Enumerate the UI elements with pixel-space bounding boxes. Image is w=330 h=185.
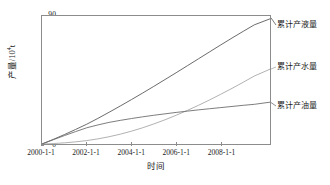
series-line-累计产液量 [42,19,270,144]
x-tick-mark-2006 [176,142,177,146]
series-label-累计产液量: 累计产液量 [277,20,317,29]
plot-area [41,15,271,145]
series-line-累计产水量 [42,69,270,144]
x-axis-title: 时间 [0,161,312,171]
y-axis-title: 产量/104t [7,27,17,97]
x-tick-mark-2008 [221,142,222,146]
series-canvas [42,16,270,144]
y-axis-title-exponent: 4 [6,47,12,50]
x-tick-mark-2002 [86,142,87,146]
production-line-chart: 0102030405060708090 产量/104t 2000-1-12002… [0,0,330,185]
x-tick-mark-2000 [41,142,42,146]
x-tick-mark-2004 [131,142,132,146]
series-label-累计产油量: 累计产油量 [277,101,317,110]
y-axis-title-base: 产量/10 [7,50,17,79]
x-tick-label-2008: 2008-1-1 [191,148,251,157]
series-label-累计产水量: 累计产水量 [277,62,317,71]
y-axis-title-unit: t [7,45,17,47]
